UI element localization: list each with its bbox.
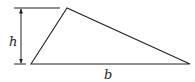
triangle-shape [31,8,190,64]
base-label: b [104,67,112,82]
height-label: h [9,34,17,49]
triangle-diagram: h b [0,0,195,82]
